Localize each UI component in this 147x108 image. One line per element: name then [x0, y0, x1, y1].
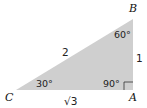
side-label-ca: √3 [64, 95, 77, 107]
side-label-ab: 1 [136, 52, 143, 64]
angle-label-c: 30° [36, 78, 53, 89]
vertex-label-c: C [5, 91, 14, 104]
angle-label-b: 60° [114, 29, 131, 40]
angle-label-a: 90° [103, 78, 120, 89]
vertex-label-b: B [128, 2, 137, 15]
side-label-bc: 2 [62, 46, 69, 58]
triangle-diagram: B C A 60° 30° 90° 2 1 √3 [0, 0, 147, 108]
vertex-label-a: A [128, 91, 137, 104]
